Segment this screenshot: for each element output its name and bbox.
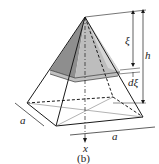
xi-label: ξ xyxy=(125,34,130,47)
h-label: h xyxy=(145,49,151,61)
base-diagonal-2 xyxy=(56,97,113,126)
base-back-left xyxy=(27,97,113,103)
slice-ref-top xyxy=(120,68,140,70)
a-left-label: a xyxy=(20,114,26,126)
slice-ref-bot xyxy=(118,72,140,74)
pyramid-diagram: ξ h dξ a a x (b) xyxy=(0,0,159,164)
dxi-label: dξ xyxy=(128,76,139,89)
h-arrow-bot xyxy=(141,100,145,104)
base-front-right xyxy=(56,117,143,126)
base-front-left xyxy=(27,103,56,126)
a-bottom-label: a xyxy=(112,130,118,142)
h-arrow-top xyxy=(141,9,145,13)
top-ref-line xyxy=(85,10,146,17)
xi-arrow-top xyxy=(131,10,135,14)
xi-arrow-bot xyxy=(131,63,135,67)
figure-caption: (b) xyxy=(77,152,90,164)
